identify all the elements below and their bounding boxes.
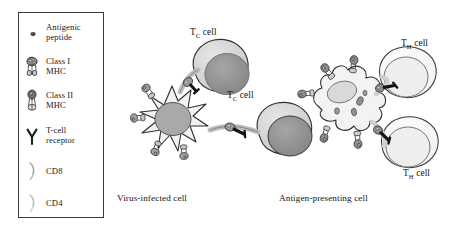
- legend-item-antigenic-peptide: Antigenic peptide: [19, 19, 105, 47]
- legend-label: Class I MHC: [45, 57, 70, 76]
- antigen-presenting-cell: [314, 66, 386, 131]
- right-panel-caption: Antigen-presenting cell: [279, 193, 368, 203]
- class-ii-mhc-icon: [19, 86, 45, 116]
- tc-cell-lower-label: TC cell: [227, 90, 254, 100]
- th-cell-upper-label: TH cell: [401, 38, 428, 48]
- th-cell-lower-label: TH cell: [403, 168, 430, 178]
- cd4-icon: [19, 189, 45, 219]
- legend-item-cd4: CD4: [19, 190, 105, 218]
- legend-label: CD4: [45, 199, 63, 209]
- antigenic-peptide-icon: [19, 18, 45, 48]
- right-panel-illustration: [288, 0, 468, 200]
- legend-panel: Antigenic peptide: [18, 12, 104, 218]
- class-i-mhc-icon: [19, 52, 45, 82]
- tc-cell-upper-label: TC cell: [190, 27, 217, 37]
- legend-label: CD8: [45, 167, 63, 177]
- figure-canvas: Antigenic peptide: [0, 0, 468, 231]
- legend-item-class-i-mhc: Class I MHC: [19, 52, 105, 82]
- synapse-lower: [210, 122, 258, 137]
- legend-label: Class II MHC: [45, 91, 73, 110]
- cd8-icon: [19, 157, 45, 187]
- legend-label: Antigenic peptide: [45, 23, 81, 42]
- left-panel-caption: Virus-infected cell: [117, 193, 187, 203]
- legend-label: T-cell receptor: [45, 126, 75, 145]
- legend-item-cd8: CD8: [19, 158, 105, 186]
- tc-cell-upper: [193, 39, 249, 94]
- legend-item-t-cell-receptor: T-cell receptor: [19, 121, 105, 151]
- t-cell-receptor-icon: [19, 121, 45, 151]
- th-cell-upper: [380, 47, 437, 98]
- legend-item-class-ii-mhc: Class II MHC: [19, 86, 105, 116]
